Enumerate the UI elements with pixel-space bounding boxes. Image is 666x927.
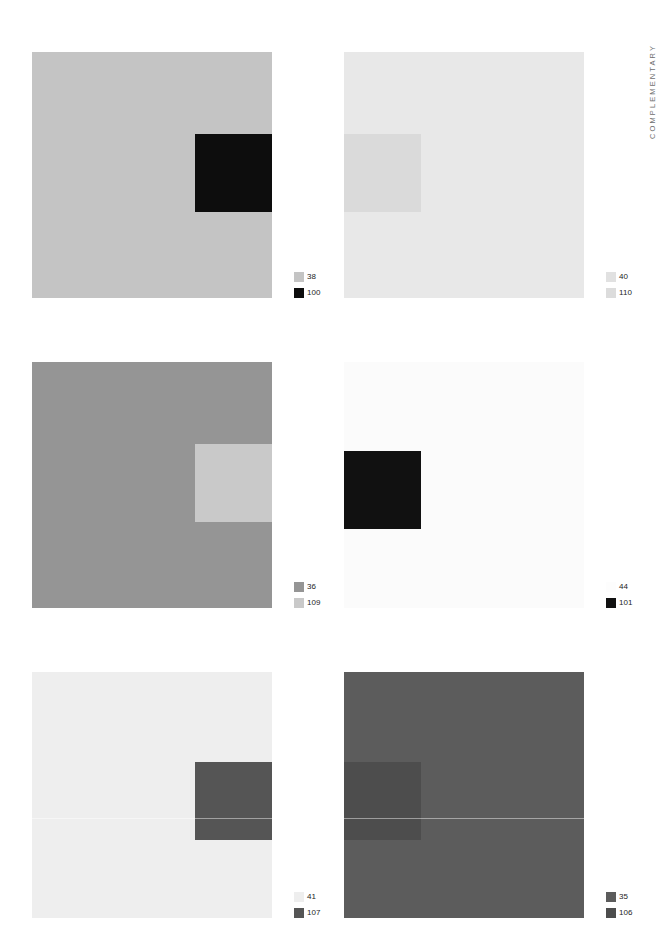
legend-label: 41 [307, 892, 316, 902]
legend-swatch [294, 908, 304, 918]
legend-label: 36 [307, 582, 316, 592]
color-plate: 38 100 [32, 52, 272, 298]
side-label-text: COMPLEMENTARY [649, 44, 657, 139]
legend-label: 106 [619, 908, 633, 918]
legend-label: 110 [619, 288, 632, 298]
legend-swatch [294, 598, 304, 608]
plate-legend: 44 101 [606, 580, 666, 612]
legend-entry: 40 [606, 270, 666, 283]
plate-legend: 40 110 [606, 270, 666, 302]
plate-patch [195, 762, 272, 840]
color-plate: 41 107 [32, 672, 272, 918]
plate-grid: 38 100 40 110 36 [0, 0, 666, 927]
plate-patch [344, 134, 421, 212]
plate-patch [195, 444, 272, 522]
legend-label: 44 [619, 582, 628, 592]
legend-swatch [294, 892, 304, 902]
color-plate: 36 109 [32, 362, 272, 608]
color-plate: 35 106 [344, 672, 584, 918]
legend-label: 100 [307, 288, 321, 298]
legend-entry: 44 [606, 580, 666, 593]
legend-label: 101 [619, 598, 633, 608]
legend-entry: 106 [606, 906, 666, 919]
page-side-label: COMPLEMENTARY [644, 44, 662, 204]
legend-swatch [606, 908, 616, 918]
legend-swatch [294, 272, 304, 282]
plate-seam-line [344, 818, 584, 819]
plate-patch [195, 134, 272, 212]
legend-swatch [294, 288, 304, 298]
plate-patch [344, 451, 421, 529]
legend-entry: 35 [606, 890, 666, 903]
legend-entry: 101 [606, 596, 666, 609]
legend-label: 35 [619, 892, 628, 902]
plate-patch [344, 762, 421, 840]
legend-swatch [606, 598, 616, 608]
legend-swatch [606, 272, 616, 282]
legend-label: 109 [307, 598, 321, 608]
legend-swatch [606, 582, 616, 592]
plate-legend: 35 106 [606, 890, 666, 922]
legend-swatch [606, 892, 616, 902]
plate-seam-line [32, 818, 272, 819]
color-plate: 40 110 [344, 52, 584, 298]
legend-swatch [606, 288, 616, 298]
legend-label: 40 [619, 272, 628, 282]
color-plate: 44 101 [344, 362, 584, 608]
legend-label: 107 [307, 908, 321, 918]
legend-label: 38 [307, 272, 316, 282]
legend-entry: 110 [606, 286, 666, 299]
legend-swatch [294, 582, 304, 592]
